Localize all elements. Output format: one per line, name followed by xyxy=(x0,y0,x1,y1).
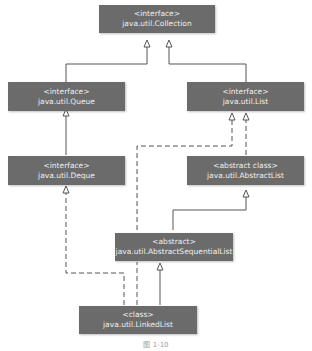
arrowhead-icon xyxy=(144,40,150,47)
node-list: <interface> java.util.List xyxy=(187,82,304,111)
node-stereotype: <class> xyxy=(79,310,197,320)
node-linkedlist: <class> java.util.LinkedList xyxy=(79,306,197,334)
node-name: java.util.Queue xyxy=(8,97,125,107)
node-abstractlist: <abstract class> java.util.AbstractList xyxy=(187,156,304,185)
node-stereotype: <interface> xyxy=(187,87,304,97)
node-queue: <interface> java.util.Queue xyxy=(8,82,125,111)
node-name: java.util.List xyxy=(187,97,304,107)
edge-asl-abstractlist xyxy=(173,196,246,230)
node-collection: <interface> java.util.Collection xyxy=(99,5,215,33)
node-stereotype: <interface> xyxy=(8,87,125,97)
node-name: java.util.AbstractSequentialList xyxy=(115,247,233,257)
node-stereotype: <interface> xyxy=(99,9,215,19)
arrowhead-icon xyxy=(63,186,69,193)
node-name: java.util.AbstractList xyxy=(187,171,304,181)
node-deque: <interface> java.util.Deque xyxy=(8,156,125,185)
node-name: java.util.LinkedList xyxy=(79,320,197,330)
node-name: java.util.Deque xyxy=(8,171,125,181)
arrowhead-icon xyxy=(157,263,163,270)
arrowhead-icon xyxy=(243,113,249,120)
node-abstractsequentiallist: <abstract> java.util.AbstractSequentialL… xyxy=(115,233,233,261)
figure-caption: 图 1-10 xyxy=(0,339,312,349)
node-name: java.util.Collection xyxy=(99,19,215,29)
arrowhead-icon xyxy=(166,40,172,47)
arrowhead-icon xyxy=(243,190,249,197)
node-stereotype: <interface> xyxy=(8,161,125,171)
edge-list-collection xyxy=(169,46,246,82)
edge-queue-collection xyxy=(66,46,147,82)
arrowhead-icon xyxy=(229,113,235,120)
node-stereotype: <abstract class> xyxy=(187,161,304,171)
node-stereotype: <abstract> xyxy=(115,237,233,247)
